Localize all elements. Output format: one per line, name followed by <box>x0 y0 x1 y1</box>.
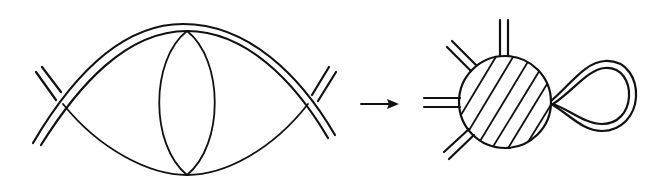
diagram-canvas: Feynman-type diagram reduction: a two-lo… <box>0 0 667 184</box>
outer-double-arc <box>33 24 335 145</box>
effective-vertex <box>424 20 636 168</box>
lower-arc <box>63 104 308 175</box>
vertical-lens-loop <box>159 31 215 175</box>
reduction-arrow <box>361 99 399 109</box>
two-loop-diagram <box>33 24 336 175</box>
top-external-leg <box>500 20 508 56</box>
right-external-leg <box>312 67 336 101</box>
tadpole-loop <box>551 61 636 131</box>
lower-left-external-leg <box>444 129 474 159</box>
upper-left-external-leg <box>447 41 476 71</box>
left-external-leg <box>36 67 61 100</box>
left-horizontal-external-leg <box>424 98 460 107</box>
